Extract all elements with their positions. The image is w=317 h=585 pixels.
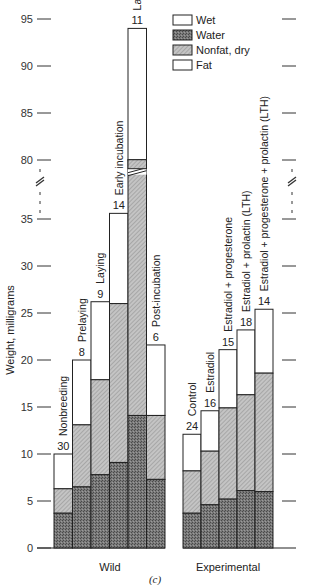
segment-nonfat-dry <box>91 475 110 548</box>
y-tick-label: 20 <box>21 354 33 366</box>
axis-break-icon <box>36 177 44 183</box>
category-label: Nonbreeding <box>57 376 69 436</box>
category-label: Estradiol <box>204 352 216 393</box>
sample-size-label: 18 <box>240 316 252 328</box>
segment-nonfat-dry <box>54 513 73 548</box>
category-label: Laying <box>94 253 106 284</box>
segment-fat <box>91 302 110 380</box>
segment-fat <box>183 434 201 471</box>
category-label: Prelaying <box>76 298 88 342</box>
category-label: Estradiol + progesterone + prolactin (LT… <box>258 96 270 291</box>
segment-nonfat-dry <box>219 499 237 548</box>
segment-fat <box>54 454 73 489</box>
legend-label: Water <box>196 29 225 41</box>
sample-size-label: 16 <box>204 397 216 409</box>
segment-water <box>73 425 92 487</box>
bar-estradiol-prolactin-lth- <box>237 330 255 548</box>
legend-item-nonfat-dry: Nonfat, dry <box>173 44 250 56</box>
group-label-wild: Wild <box>99 561 120 573</box>
category-label: Early incubation <box>113 120 125 195</box>
stacked-bar-chart: 0510152025303580859095 30Nonbreeding8Pre… <box>0 0 317 585</box>
segment-water <box>255 373 273 491</box>
legend-label: Fat <box>196 59 212 71</box>
segment-nonfat-dry <box>128 415 147 548</box>
bar-early-incubation <box>110 213 129 548</box>
y-tick-label: 25 <box>21 307 33 319</box>
legend-label: Nonfat, dry <box>196 44 250 56</box>
y-tick-label: 0 <box>27 542 33 554</box>
y-tick-label: 85 <box>21 107 33 119</box>
segment-water <box>147 415 166 479</box>
segment-nonfat-dry <box>237 491 255 548</box>
segment-nonfat-dry <box>147 479 166 548</box>
segment-fat <box>147 345 166 416</box>
segment-water <box>128 160 147 415</box>
legend-item-fat: Fat <box>173 59 212 71</box>
legend-label: Wet <box>196 14 215 26</box>
y-tick-label: 90 <box>21 60 33 72</box>
category-label: Late incubation <box>131 0 143 10</box>
legend: WetWaterNonfat, dryFat <box>173 14 250 71</box>
segment-nonfat-dry <box>110 462 129 548</box>
legend-item-water: Water <box>173 29 225 41</box>
category-label: Post-incubation <box>150 254 162 327</box>
segment-fat <box>201 411 219 451</box>
figure-caption: (c) <box>149 573 162 585</box>
segment-water <box>110 304 129 463</box>
segment-water <box>91 380 110 475</box>
legend-swatch <box>173 15 192 25</box>
segment-water <box>183 471 201 513</box>
sample-size-label: 8 <box>79 346 85 358</box>
sample-size-label: 14 <box>113 199 125 211</box>
sample-size-label: 15 <box>222 336 234 348</box>
segment-water <box>201 451 219 505</box>
bar-estradiol-progesterone <box>219 350 237 548</box>
bar-estradiol-progesterone-prolactin-lth- <box>255 309 273 548</box>
bar-control <box>183 434 201 548</box>
bar-late-incubation <box>128 28 147 548</box>
bar-prelaying <box>73 360 92 548</box>
bar-nonbreeding <box>54 454 73 548</box>
y-axis-title: Weight, milligrams <box>4 285 16 375</box>
segment-fat <box>219 350 237 408</box>
axis-break-icon <box>36 180 44 186</box>
y-tick-label: 10 <box>21 448 33 460</box>
legend-item-wet: Wet <box>173 14 215 26</box>
sample-size-label: 24 <box>186 420 198 432</box>
segment-fat <box>237 330 255 395</box>
y-tick-label: 15 <box>21 401 33 413</box>
segment-fat <box>73 360 92 425</box>
segment-water <box>219 408 237 499</box>
legend-swatch <box>173 60 192 70</box>
category-label: Estradiol + prolactin (LTH) <box>240 190 252 311</box>
category-label: Control <box>186 382 198 416</box>
category-label: Estradiol + progesterone <box>222 217 234 332</box>
y-tick-label: 5 <box>27 495 33 507</box>
sample-size-label: 9 <box>97 288 103 300</box>
bar-estradiol <box>201 411 219 548</box>
segment-fat <box>255 309 273 373</box>
bar-post-incubation <box>147 345 166 548</box>
y-tick-label: 35 <box>21 213 33 225</box>
segment-water <box>54 489 73 513</box>
segment-nonfat-dry <box>73 487 92 548</box>
segment-fat <box>110 213 129 303</box>
legend-swatch <box>173 45 192 55</box>
sample-size-label: 14 <box>258 295 270 307</box>
sample-size-label: 11 <box>132 14 143 26</box>
y-tick-label: 80 <box>21 154 33 166</box>
segment-water <box>237 395 255 491</box>
sample-size-label: 30 <box>57 440 69 452</box>
segment-nonfat-dry <box>201 505 219 548</box>
segment-nonfat-dry <box>183 513 201 548</box>
axis-break-icon <box>288 177 296 183</box>
y-tick-label: 30 <box>21 260 33 272</box>
segment-nonfat-dry <box>255 492 273 548</box>
sample-size-label: 6 <box>153 331 159 343</box>
group-label-experimental: Experimental <box>196 561 260 573</box>
segment-fat <box>128 28 147 160</box>
bar-laying <box>91 302 110 548</box>
y-tick-label: 95 <box>21 13 33 25</box>
legend-swatch <box>173 30 192 40</box>
axis-break-icon <box>288 180 296 186</box>
